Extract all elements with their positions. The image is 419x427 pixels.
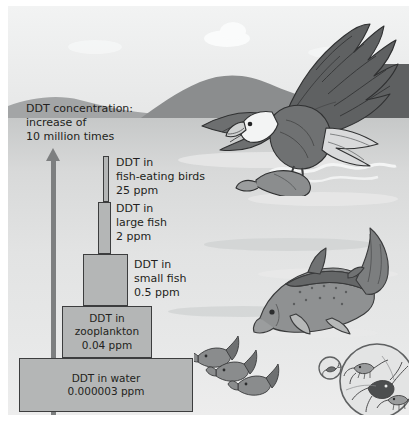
pyramid-bar-zooplankton[interactable]: DDT in zooplankton 0.04 ppm — [62, 306, 152, 358]
pyramid-bar-water[interactable]: DDT in water 0.000003 ppm — [19, 358, 193, 412]
pyramid-label-birds: DDT in fish-eating birds 25 ppm — [116, 156, 236, 199]
zooplankton-magnified-icon — [338, 342, 409, 415]
pyramid-bar-small-fish[interactable] — [83, 254, 128, 306]
pyramid-bar-birds[interactable] — [103, 156, 109, 202]
figure-caption: DDT concentration: increase of 10 millio… — [26, 102, 176, 145]
cloud-icon — [68, 40, 122, 54]
pyramid-label-small-fish: DDT in small fish 0.5 ppm — [134, 258, 244, 301]
trout-icon — [246, 222, 406, 344]
pyramid-label-large-fish: DDT in large fish 2 ppm — [116, 202, 226, 245]
pyramid-bar-large-fish[interactable] — [98, 202, 111, 254]
school-of-small-fish-icon — [194, 332, 314, 404]
ddt-biomagnification-figure: DDT concentration: increase of 10 millio… — [0, 0, 419, 427]
illustration-scene: DDT concentration: increase of 10 millio… — [8, 6, 409, 415]
